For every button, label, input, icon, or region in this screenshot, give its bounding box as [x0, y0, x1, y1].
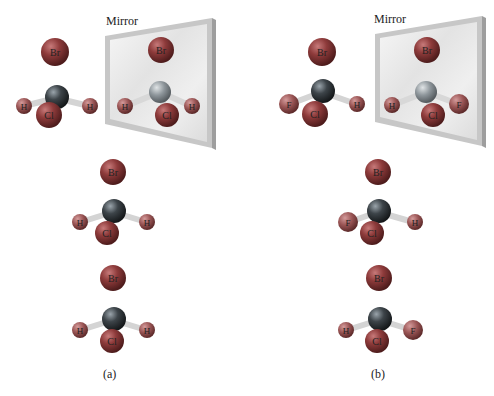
- atom-label: F: [410, 326, 415, 336]
- atom-label: H: [87, 102, 94, 112]
- atom-label: Br: [50, 47, 61, 58]
- molecule-b-rotated-1: F H Br Cl: [338, 159, 423, 245]
- atom-label: Cl: [162, 110, 172, 121]
- atom-label: Cl: [367, 228, 377, 239]
- atom-label: F: [456, 100, 461, 110]
- atom-label: H: [343, 326, 350, 336]
- atom-label: F: [345, 218, 350, 228]
- atom-label: Cl: [107, 336, 117, 347]
- atom-label: H: [21, 102, 28, 112]
- atom-label: Br: [156, 45, 167, 56]
- atom-label: Br: [373, 167, 384, 178]
- atom-label: H: [122, 102, 129, 112]
- atom-label: Cl: [372, 336, 382, 347]
- atom-label: Cl: [310, 109, 320, 120]
- molecule-b-original: F H Br Cl: [279, 38, 365, 127]
- atom-label: H: [389, 101, 396, 111]
- atom-label: Br: [317, 47, 328, 58]
- panel-b: F H Br Cl H F Br: [279, 16, 486, 353]
- molecule-b-rotated-2: H F Br Cl: [338, 265, 423, 353]
- atom-label: H: [412, 218, 419, 228]
- panel-label-b: (b): [371, 367, 385, 382]
- atom-label: H: [144, 326, 151, 336]
- panel-a: H H Br Cl H H Br: [16, 18, 216, 353]
- atom-label: Br: [108, 273, 119, 284]
- atom-label: H: [144, 218, 151, 228]
- chirality-figure: H H Br Cl H H Br: [0, 0, 494, 396]
- atom-label: Cl: [102, 228, 112, 239]
- mirror-label-b: Mirror: [374, 12, 406, 27]
- atom-label: H: [189, 102, 196, 112]
- atom-label: Br: [108, 167, 119, 178]
- panel-label-a: (a): [103, 367, 116, 382]
- atom-label: H: [77, 326, 84, 336]
- atom-label: Br: [374, 273, 385, 284]
- molecule-a-rotated-2: H H Br Cl: [72, 265, 155, 353]
- mirror-label-a: Mirror: [106, 14, 138, 29]
- atom-label: H: [354, 100, 361, 110]
- atom-label: F: [286, 100, 291, 110]
- atom-label: Cl: [44, 110, 54, 121]
- atom-label: H: [77, 218, 84, 228]
- atom-label: Cl: [428, 110, 438, 121]
- atom-label: Br: [422, 45, 433, 56]
- molecule-a-rotated-1: H H Br Cl: [72, 159, 155, 245]
- molecule-a-original: H H Br Cl: [16, 38, 98, 128]
